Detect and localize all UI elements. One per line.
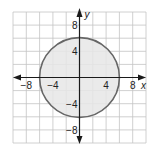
y-tick-label: −8 [66,125,78,136]
y-tick-label: 8 [72,20,78,31]
y-tick-label: 4 [72,46,78,57]
coordinate-plane: −8 −4 4 8 8 4 −4 −8 x y [0,0,153,151]
y-axis-label: y [84,9,91,20]
y-tick-label: −4 [66,99,78,110]
x-tick-label: −4 [47,80,59,91]
x-axis-label: x [140,80,147,91]
x-tick-label: 8 [130,80,136,91]
x-tick-label: 4 [103,80,109,91]
axes [13,8,146,144]
y-axis-up-arrow-icon [77,8,83,17]
x-tick-label: −8 [21,80,33,91]
